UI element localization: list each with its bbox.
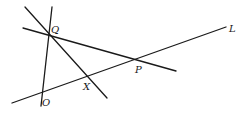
line-L [12,27,226,103]
label-l: L [228,23,236,34]
label-q: Q [51,24,59,35]
label-p: P [134,64,142,75]
label-o: O [42,97,50,108]
geometry-diagram: Q P X O L [0,0,249,117]
diagram-canvas: Q P X O L [0,0,249,117]
label-x: X [82,81,91,92]
